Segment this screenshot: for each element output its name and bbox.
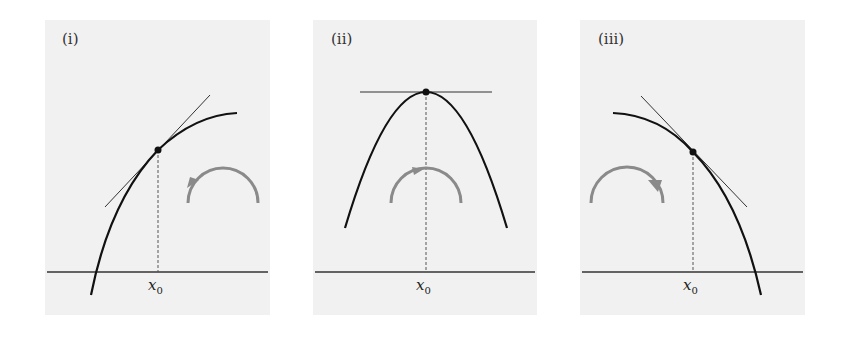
x0-label-ii: x0	[416, 276, 431, 296]
panel-label-ii: (ii)	[331, 30, 352, 48]
panel-label-i: (i)	[62, 30, 79, 48]
panel-iii-graph	[582, 96, 803, 295]
diagram-canvas	[0, 0, 842, 350]
x0-label-iii: x0	[683, 276, 698, 296]
rotation-arrow-icon	[188, 168, 258, 203]
curve	[613, 113, 761, 295]
panel-label-iii: (iii)	[598, 30, 624, 48]
x0-label-i: x0	[148, 276, 163, 296]
curve	[91, 113, 237, 295]
panel-i-graph	[47, 95, 268, 295]
subscript: 0	[424, 285, 430, 296]
subscript: 0	[691, 285, 697, 296]
subscript: 0	[156, 285, 162, 296]
tangent-point	[423, 89, 430, 96]
tangent-point	[690, 149, 697, 156]
panel-ii-graph	[315, 89, 535, 273]
tangent-point	[155, 147, 162, 154]
